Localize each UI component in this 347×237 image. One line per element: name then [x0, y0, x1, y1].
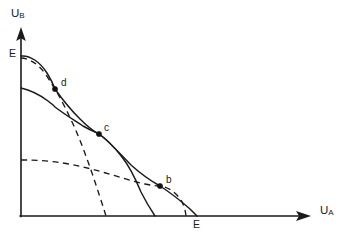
figure-container: UB UA E E d c b	[0, 0, 347, 237]
y-axis-endpoint-label-E: E	[9, 48, 16, 59]
y-axis-label: UB	[11, 8, 25, 20]
axes-group	[16, 27, 311, 221]
point-label-d: d	[61, 78, 67, 88]
y-axis-label-subscript: B	[19, 11, 24, 20]
diagram-canvas	[0, 0, 347, 237]
point-label-c: c	[104, 123, 109, 133]
inner-curve-path	[21, 88, 155, 216]
point-marker-c	[96, 131, 101, 136]
x-axis-endpoint-label-E: E	[193, 219, 200, 230]
point-label-b: b	[166, 175, 172, 185]
point-marker-d	[52, 86, 57, 91]
point-marker-b	[157, 183, 162, 188]
inner-solid-curve	[21, 88, 155, 216]
outer-frontier-path	[21, 56, 197, 216]
x-axis-label: UA	[320, 205, 334, 217]
x-axis-label-subscript: A	[328, 208, 333, 217]
outer-solid-frontier	[21, 56, 197, 216]
